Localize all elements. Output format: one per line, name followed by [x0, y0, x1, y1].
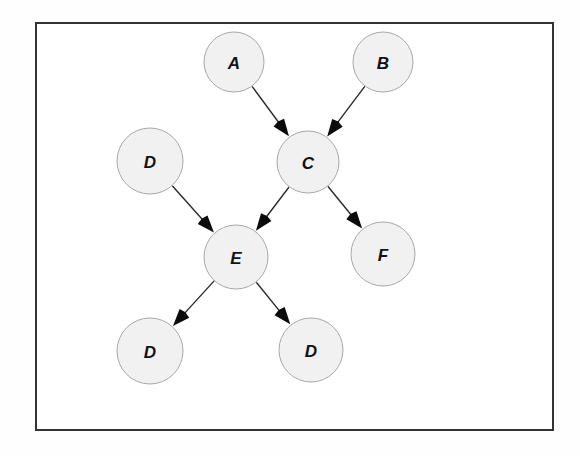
node-label: E [230, 249, 242, 268]
node-label: A [227, 54, 240, 73]
graph-node-b[interactable]: B [353, 32, 413, 92]
figure-root: ABCDEFDD [0, 0, 580, 456]
node-label: D [144, 153, 156, 172]
node-label: B [377, 54, 389, 73]
graph-node-d3[interactable]: D [279, 318, 343, 382]
graph-node-a[interactable]: A [204, 32, 264, 92]
graph-node-c[interactable]: C [277, 131, 339, 193]
node-label: F [378, 246, 389, 265]
node-label: D [144, 343, 156, 362]
node-label: D [305, 342, 317, 361]
node-label: C [302, 154, 315, 173]
graph-node-d2[interactable]: D [117, 318, 183, 384]
graph-node-f[interactable]: F [351, 222, 415, 286]
graph-node-e[interactable]: E [204, 225, 268, 289]
graph-diagram: ABCDEFDD [0, 0, 580, 456]
graph-node-d1[interactable]: D [117, 128, 183, 194]
